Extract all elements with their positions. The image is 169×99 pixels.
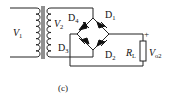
label-v1: V1 (13, 27, 22, 39)
figure-caption: (c) (58, 83, 68, 93)
bridge-rectifier-diagram: V1 V2 D4 D1 D3 D2 RL Vo2 + (c) (0, 0, 169, 99)
secondary-coil (47, 8, 51, 57)
label-vo: Vo2 (149, 47, 162, 59)
label-d2: D2 (105, 49, 115, 61)
diode-d2 (97, 40, 107, 46)
load-resistor (140, 41, 146, 61)
transformer-core (42, 6, 44, 59)
bridge-diamond (77, 18, 109, 50)
primary-coil (36, 8, 40, 57)
label-d4: D4 (68, 12, 79, 24)
diode-d3 (79, 38, 89, 44)
label-d3: D3 (58, 42, 68, 54)
label-d1: D1 (105, 9, 115, 21)
label-v2: V2 (54, 18, 63, 30)
positive-wire (109, 34, 143, 41)
label-rl: RL (125, 47, 136, 59)
plus-sign: + (144, 29, 149, 39)
diode-d1 (97, 22, 107, 28)
